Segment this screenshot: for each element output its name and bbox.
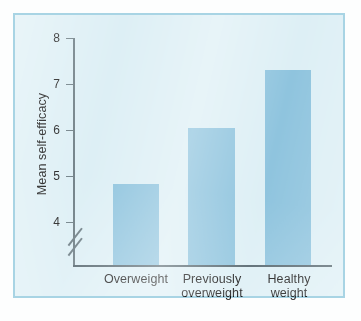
figure-caption-fragment	[16, 305, 346, 317]
x-category-line: Overweight	[100, 272, 172, 286]
x-category-label-previously-overweight: Previously overweight	[171, 272, 253, 300]
y-tick-mark-5	[66, 176, 74, 177]
x-category-line: Previously	[171, 272, 253, 286]
x-category-label-healthy-weight: Healthy weight	[253, 272, 325, 300]
x-category-label-overweight: Overweight	[100, 272, 172, 286]
figure-panel: 8 7 6 5 4 Mean self-efficacy Overweigh	[13, 13, 345, 298]
bar-healthy-weight	[265, 70, 311, 265]
x-category-line: Healthy	[253, 272, 325, 286]
y-tick-mark-8	[66, 38, 74, 39]
x-axis-line	[73, 265, 332, 267]
bar-overweight	[113, 184, 159, 265]
y-tick-mark-6	[66, 130, 74, 131]
y-tick-mark-7	[66, 84, 74, 85]
y-axis-title: Mean self-efficacy	[35, 54, 49, 234]
bar-previously-overweight	[188, 128, 235, 265]
scanned-page: 8 7 6 5 4 Mean self-efficacy Overweigh	[0, 0, 361, 321]
x-category-line: weight	[253, 286, 325, 300]
y-tick-mark-4	[66, 222, 74, 223]
bar-chart-plot: 8 7 6 5 4 Mean self-efficacy Overweigh	[15, 15, 347, 300]
axis-break-marker	[63, 227, 87, 257]
x-category-line: overweight	[171, 286, 253, 300]
y-tick-label-8: 8	[34, 32, 60, 44]
